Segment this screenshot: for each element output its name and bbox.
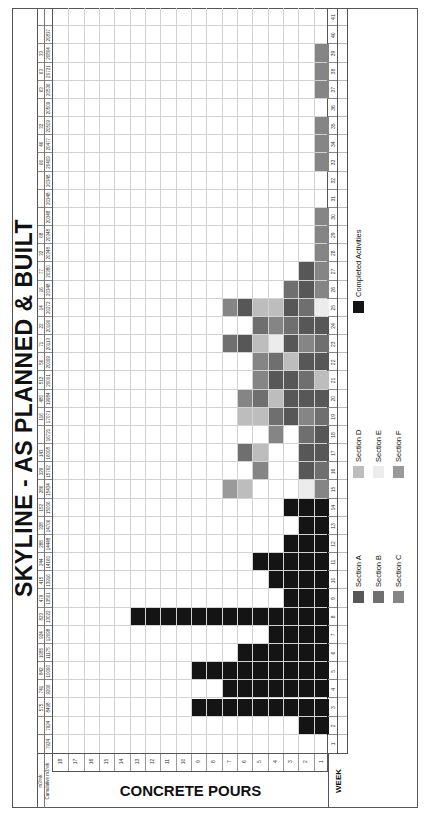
- x-axis-label: WEEK: [328, 753, 348, 808]
- m3-per-week-value: 924: [38, 626, 45, 644]
- m3-per-week-value: 32: [38, 117, 45, 135]
- grid-line: [53, 607, 327, 608]
- grid-line: [206, 8, 207, 753]
- grid-line: [53, 516, 327, 517]
- grid-cell: [283, 371, 298, 389]
- grid-cell: [298, 353, 313, 371]
- grid-cell: [298, 390, 313, 408]
- grid-cell: [130, 608, 145, 626]
- grid-cell: [222, 699, 237, 717]
- grid-cell: [252, 462, 267, 480]
- pour-count-tick: 15: [99, 752, 114, 771]
- grid-line: [53, 334, 327, 335]
- week-tick: 4: [328, 680, 338, 698]
- m3-per-week-value: [38, 426, 45, 444]
- legend-label: Section A: [354, 555, 363, 587]
- grid-cell: [314, 208, 329, 226]
- week-tick: 21: [328, 371, 338, 389]
- grid-line: [53, 370, 327, 371]
- cumulative-value: 16008: [45, 444, 52, 462]
- week-tick: 5: [328, 662, 338, 680]
- cumulative-value: 20804: [45, 44, 52, 62]
- grid-cell: [222, 662, 237, 680]
- grid-cell: [237, 480, 252, 498]
- grid-cell: [268, 371, 283, 389]
- grid-cell: [314, 408, 329, 426]
- pour-count-tick: 9: [191, 752, 206, 771]
- cumulative-value: 12098: [45, 626, 52, 644]
- grid-line: [53, 461, 327, 462]
- grid-cell: [314, 480, 329, 498]
- pour-count-tick: 16: [84, 752, 99, 771]
- grid-line: [53, 352, 327, 353]
- grid-line: [53, 679, 327, 680]
- grid-cell: [314, 517, 329, 535]
- cumulative-value: 20348: [45, 208, 52, 226]
- m3-per-week-value: 56: [38, 353, 45, 371]
- grid-line: [53, 134, 327, 135]
- grid-line: [53, 643, 327, 644]
- legend: Section ASection BSection CSection DSect…: [348, 8, 418, 808]
- m3-per-week-value: 480: [38, 390, 45, 408]
- grid-cell: [283, 644, 298, 662]
- grid-cell: [298, 371, 313, 389]
- grid-cell: [314, 444, 329, 462]
- grid-line: [53, 43, 327, 44]
- grid-cell: [252, 299, 267, 317]
- pour-count-axis: 123456789101112131415161718: [52, 753, 328, 772]
- y-axis-label: CONCRETE POURS: [52, 772, 328, 808]
- week-tick: 1: [328, 735, 338, 753]
- legend-swatch: [353, 591, 364, 603]
- grid-cell: [314, 699, 329, 717]
- cumulative-value: 13501: [45, 589, 52, 607]
- m3-per-week-value: [38, 172, 45, 190]
- grid-line: [160, 8, 161, 753]
- grid-cell: [314, 135, 329, 153]
- legend-item-d: Section D: [353, 429, 364, 478]
- grid-cell: [314, 353, 329, 371]
- pour-count-tick: 17: [68, 752, 83, 771]
- legend-swatch: [373, 466, 384, 478]
- m3-per-week-label: m3/wk: [38, 753, 45, 808]
- grid-cell: [222, 480, 237, 498]
- week-tick: 12: [328, 535, 338, 553]
- grid-line: [53, 243, 327, 244]
- cumulative-value: 15762: [45, 462, 52, 480]
- week-tick: 31: [328, 190, 338, 208]
- m3-per-week-value: 288: [38, 535, 45, 553]
- grid-cell: [268, 317, 283, 335]
- grid-cell: [298, 462, 313, 480]
- week-tick: 18: [328, 426, 338, 444]
- pour-count-tick: 5: [252, 752, 267, 771]
- grid-cell: [283, 626, 298, 644]
- grid-line: [314, 8, 315, 753]
- grid-cell: [252, 353, 267, 371]
- grid-cell: [160, 608, 175, 626]
- cumulative-value: 20837: [45, 26, 52, 44]
- cumulative-value: 20348: [45, 226, 52, 244]
- cumulative-value: 14448: [45, 535, 52, 553]
- cumulative-value: [45, 8, 52, 26]
- grid-cell: [191, 608, 206, 626]
- grid-line: [53, 116, 327, 117]
- week-tick: 26: [328, 281, 338, 299]
- grid-cell: [314, 299, 329, 317]
- week-tick: 34: [328, 135, 338, 153]
- m3-per-week-value: 741: [38, 680, 45, 698]
- grid-line: [145, 8, 146, 753]
- legend-item-c: Section C: [393, 554, 404, 603]
- legend-item-a: Section A: [353, 555, 364, 603]
- grid-cell: [206, 662, 221, 680]
- m3-per-week-value: 328: [38, 517, 45, 535]
- cumulative-value: 13022: [45, 608, 52, 626]
- week-tick: 29: [328, 226, 338, 244]
- grid-line: [53, 570, 327, 571]
- grid-cell: [314, 462, 329, 480]
- grid-cell: [298, 717, 313, 735]
- pour-count-tick: 7: [222, 752, 237, 771]
- cumulative-value: 20113: [45, 335, 52, 353]
- cumulative-value: 7924: [45, 717, 52, 735]
- skyline-grid: [52, 8, 328, 753]
- week-tick: 10: [328, 571, 338, 589]
- legend-swatch: [373, 591, 384, 603]
